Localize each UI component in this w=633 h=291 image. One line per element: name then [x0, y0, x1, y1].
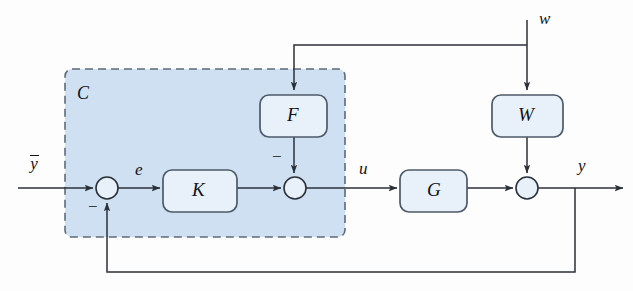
signal-label-control: u — [359, 160, 368, 177]
block-label-G: G — [427, 180, 441, 199]
signal-label-output: y — [578, 157, 586, 174]
summing-junction-control[interactable] — [284, 177, 306, 199]
sign-minus-control-sum: − — [272, 148, 282, 165]
signal-label-disturbance: w — [539, 10, 550, 27]
block-label-W: W — [518, 105, 534, 124]
block-label-K: K — [192, 180, 205, 199]
block-label-F: F — [287, 105, 299, 124]
summing-junction-error[interactable] — [96, 177, 118, 199]
block-diagram: C y e u w y K F G W − − — [0, 0, 633, 291]
diagram-canvas — [0, 0, 633, 291]
signal-label-error: e — [135, 161, 143, 178]
controller-region-label: C — [77, 84, 89, 102]
sign-minus-error-sum: − — [88, 198, 98, 215]
signal-label-reference: y — [29, 155, 39, 172]
summing-junction-output[interactable] — [516, 177, 538, 199]
